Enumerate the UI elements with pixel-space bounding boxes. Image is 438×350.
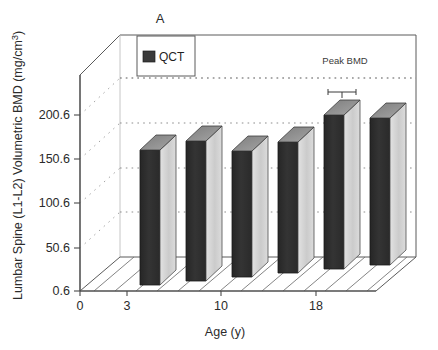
- figure-canvas: 0.6 50.6 100.6 150.6 200.6 0 3 10 18 Age…: [0, 0, 438, 350]
- bar-age-3: [140, 135, 176, 285]
- bar-age-14: [324, 100, 360, 269]
- bar-chart-3d: 0.6 50.6 100.6 150.6 200.6 0 3 10 18 Age…: [0, 0, 438, 350]
- peak-bmd-annotation: Peak BMD: [322, 55, 368, 66]
- bar-age-18: [370, 103, 406, 265]
- x-tick-label-3: 18: [309, 299, 323, 313]
- x-tick-label-2: 10: [214, 299, 228, 313]
- legend-swatch-qct: [143, 51, 155, 62]
- legend-label-qct: QCT: [159, 50, 185, 64]
- y-tick-label-3: 150.6: [39, 152, 70, 166]
- x-tick-label-1: 3: [124, 299, 131, 313]
- y-tick-label-0: 0.6: [53, 284, 70, 298]
- x-axis: [80, 291, 316, 296]
- bar-age-5: [186, 126, 222, 281]
- y-tick-label-2: 100.6: [39, 196, 70, 210]
- y-axis: [74, 75, 80, 291]
- panel-label: A: [156, 11, 165, 26]
- x-axis-title: Age (y): [205, 325, 245, 339]
- y-axis-title-close: ): [11, 31, 25, 35]
- y-tick-label-1: 50.6: [46, 241, 70, 255]
- y-axis-title-main: Lumbar Spine (L1-L2) Volumetric BMD (mg/…: [11, 40, 25, 300]
- y-tick-label-4: 200.6: [39, 108, 70, 122]
- y-axis-title: Lumbar Spine (L1-L2) Volumetric BMD (mg/…: [9, 31, 25, 300]
- svg-text:Lumbar Spine (L1-L2) Volumetri: Lumbar Spine (L1-L2) Volumetric BMD (mg/…: [9, 31, 25, 300]
- bar-age-10: [278, 127, 314, 273]
- legend[interactable]: QCT: [137, 36, 195, 76]
- x-tick-label-0: 0: [77, 299, 84, 313]
- bar-age-7: [232, 136, 268, 277]
